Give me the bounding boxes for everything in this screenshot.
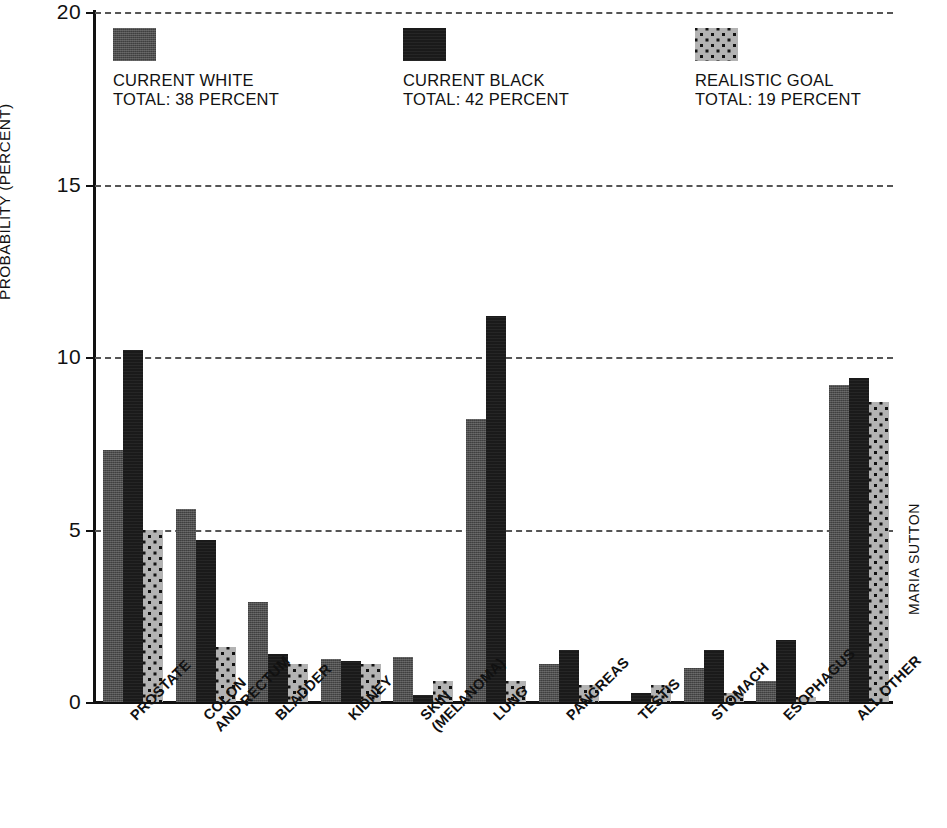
- bar: [869, 402, 889, 702]
- legend-label: CURRENT BLACKTOTAL: 42 PERCENT: [403, 71, 663, 109]
- bar: [704, 650, 724, 702]
- y-axis-tick-mark: [86, 357, 95, 359]
- chart-legend: CURRENT WHITETOTAL: 38 PERCENTCURRENT BL…: [113, 28, 893, 124]
- bar: [123, 350, 143, 702]
- bar: [539, 664, 559, 702]
- legend-label: CURRENT WHITETOTAL: 38 PERCENT: [113, 71, 373, 109]
- y-axis-tick-mark: [86, 530, 95, 532]
- legend-item: CURRENT BLACKTOTAL: 42 PERCENT: [403, 28, 663, 109]
- legend-swatch-icon: [113, 28, 156, 61]
- y-axis-tick-label: 20: [57, 0, 81, 24]
- legend-item: REALISTIC GOALTOTAL: 19 PERCENT: [695, 28, 947, 109]
- legend-swatch-icon: [403, 28, 446, 61]
- y-axis-tick-label: 5: [69, 518, 81, 542]
- legend-series-name: CURRENT WHITE: [113, 71, 373, 90]
- legend-series-name: REALISTIC GOAL: [695, 71, 947, 90]
- bar: [776, 640, 796, 702]
- bar: [143, 530, 163, 703]
- bar: [103, 450, 123, 702]
- bar: [756, 681, 776, 702]
- legend-series-total: TOTAL: 19 PERCENT: [695, 90, 947, 109]
- y-axis-label: PROBABILITY (PERCENT): [0, 0, 14, 300]
- bar: [559, 650, 579, 702]
- legend-swatch-icon: [695, 28, 738, 61]
- credit-text: MARIA SUTTON: [906, 503, 922, 615]
- y-axis-tick-label: 15: [57, 173, 81, 197]
- y-axis-tick-label: 10: [57, 345, 81, 369]
- bar: [684, 668, 704, 703]
- bar: [393, 657, 413, 702]
- legend-item: CURRENT WHITETOTAL: 38 PERCENT: [113, 28, 373, 109]
- legend-series-name: CURRENT BLACK: [403, 71, 663, 90]
- cropped-title-remnant: [150, 0, 850, 4]
- chart-figure: PROBABILITY (PERCENT) 05101520 PROSTATEC…: [0, 0, 947, 828]
- y-axis-tick-label: 0: [69, 690, 81, 714]
- bar: [196, 540, 216, 702]
- legend-label: REALISTIC GOALTOTAL: 19 PERCENT: [695, 71, 947, 109]
- y-axis-tick-mark: [86, 12, 95, 14]
- y-axis-tick-mark: [86, 702, 95, 704]
- bar: [486, 316, 506, 702]
- legend-series-total: TOTAL: 42 PERCENT: [403, 90, 663, 109]
- legend-series-total: TOTAL: 38 PERCENT: [113, 90, 373, 109]
- bar: [341, 661, 361, 702]
- y-axis-tick-mark: [86, 185, 95, 187]
